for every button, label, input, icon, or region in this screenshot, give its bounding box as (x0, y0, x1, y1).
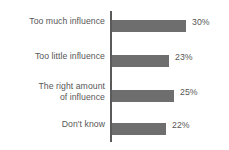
value-label: 22% (172, 120, 190, 131)
category-label: Too much influence (3, 16, 105, 27)
bar-segment (112, 55, 169, 67)
bar-segment (112, 20, 186, 32)
bar-segment (112, 123, 166, 135)
bar-chart: Too much influence 30% Too little influe… (0, 0, 229, 150)
category-label: Don't know (3, 119, 105, 130)
bar-segment (112, 90, 174, 102)
category-label: The right amount of influence (3, 81, 105, 102)
bar-row: Don't know 22% (0, 119, 229, 139)
bar-row: The right amount of influence 25% (0, 86, 229, 106)
bar-row: Too much influence 30% (0, 16, 229, 36)
bar-row: Too little influence 23% (0, 51, 229, 71)
value-label: 23% (175, 52, 193, 63)
value-label: 30% (192, 17, 210, 28)
category-label: Too little influence (3, 51, 105, 62)
value-label: 25% (180, 87, 198, 98)
